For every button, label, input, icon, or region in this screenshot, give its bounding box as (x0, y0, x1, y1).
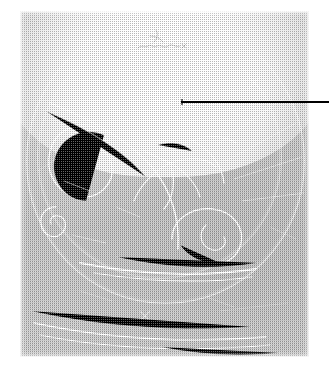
bubble-chamber-photograph (20, 11, 309, 357)
figure-root (0, 0, 329, 365)
callout-leader-line (181, 101, 329, 103)
emulsion-hand-annotation (132, 28, 194, 54)
particle-tracks (20, 11, 309, 357)
